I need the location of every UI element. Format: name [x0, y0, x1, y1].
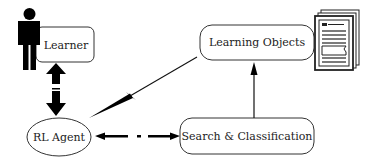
person-icon	[18, 8, 40, 70]
learner-node: Learner	[36, 27, 94, 62]
search-to-objects-arrow	[251, 62, 258, 118]
objects-to-agent-arrow	[89, 57, 197, 118]
diagram-svg: Learner RL Agent Learning Objects	[0, 0, 369, 163]
agent-search-dashed-arrow	[95, 133, 180, 141]
rl-agent-label: RL Agent	[33, 131, 86, 144]
search-classification-node: Search & Classification	[180, 118, 314, 154]
search-classification-label: Search & Classification	[182, 130, 313, 143]
learner-label: Learner	[44, 39, 89, 52]
document-stack-icon	[315, 10, 359, 70]
rl-agent-node: RL Agent	[27, 118, 91, 156]
learning-objects-label: Learning Objects	[209, 36, 305, 49]
learner-agent-double-arrow	[46, 63, 66, 116]
learning-objects-node: Learning Objects	[200, 25, 314, 60]
diagram-canvas: Learner RL Agent Learning Objects	[0, 0, 369, 163]
